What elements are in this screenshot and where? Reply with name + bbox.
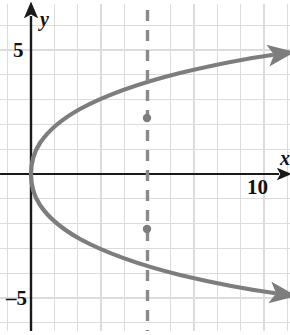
x-axis-name-label: x [280,148,290,168]
y-axis-name-label: y [40,9,49,29]
y-axis-tick-label-5: 5 [13,40,24,61]
parabola-upper-branch [31,55,272,174]
intersection-point-upper [143,114,151,122]
intersection-point-lower [143,225,151,233]
graph-figure: 5 –5 10 y x [0,0,290,335]
y-axis-tick-label-minus-5: –5 [6,288,27,309]
coordinate-plane-svg [0,0,290,335]
parabola-lower-branch [31,174,274,293]
x-axis-tick-label-10: 10 [247,177,268,198]
